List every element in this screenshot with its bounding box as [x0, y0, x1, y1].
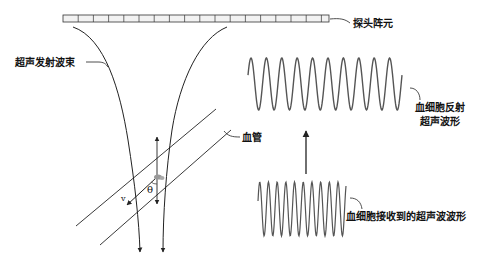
received-waveform	[258, 182, 346, 236]
reflected-label-line2: 超声波形	[420, 115, 460, 128]
velocity-label: v	[120, 194, 126, 203]
vessel-wall-upper	[76, 109, 216, 226]
vessel-wall-lower	[100, 130, 231, 245]
beam-right-curve	[163, 27, 227, 252]
beam-label: 超声发射波束	[15, 56, 75, 69]
angle-label: θ	[147, 184, 153, 195]
transducer-array	[63, 15, 329, 22]
reflected-label-line1: 血细胞反射	[415, 101, 465, 114]
transducer-label: 探头阵元	[353, 17, 393, 30]
received-label: 血细胞接收到的超声波波形	[346, 210, 466, 223]
reflected-leader	[410, 88, 420, 100]
reflected-waveform	[248, 58, 402, 110]
received-leader	[350, 198, 362, 209]
transducer-leader	[330, 19, 350, 23]
vessel-label: 血管	[242, 131, 262, 144]
beam-leader	[86, 62, 108, 67]
blood-cell-icon-2	[160, 176, 165, 180]
